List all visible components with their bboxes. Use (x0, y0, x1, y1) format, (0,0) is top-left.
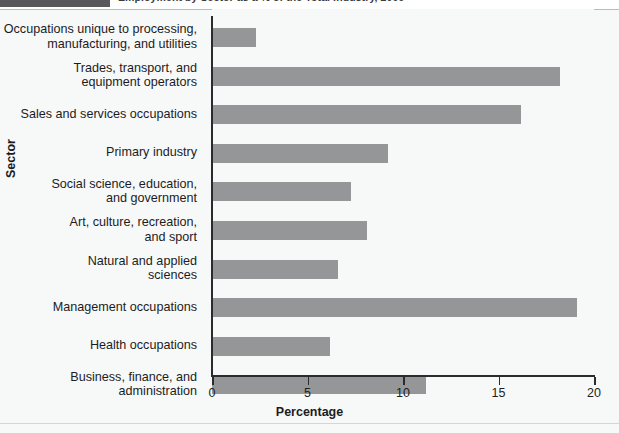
chart-figure: Employment by Sector as a % of the Total… (0, 0, 619, 433)
x-axis-tick-label: 15 (492, 386, 506, 400)
x-axis-tick (499, 377, 501, 385)
category-label: Social science, education, and governmen… (0, 177, 205, 206)
bar (212, 298, 577, 317)
category-label: Management occupations (0, 300, 205, 314)
category-labels: Occupations unique to processing, manufa… (0, 0, 205, 433)
bar (212, 28, 256, 47)
bottom-divider (0, 423, 619, 424)
bar (212, 67, 560, 86)
x-axis-tick (403, 377, 405, 385)
category-label: Trades, transport, and equipment operato… (0, 61, 205, 90)
bar (212, 144, 388, 163)
bar (212, 221, 367, 240)
category-label: Primary industry (0, 145, 205, 159)
bar (212, 260, 338, 279)
x-axis-tick (308, 377, 310, 385)
x-axis-title: Percentage (0, 405, 619, 419)
x-axis-tick-label: 5 (304, 386, 311, 400)
x-axis-tick-label: 20 (587, 386, 601, 400)
x-axis-tick-label: 0 (209, 386, 216, 400)
x-axis-tick (594, 377, 596, 385)
category-label: Sales and services occupations (0, 107, 205, 121)
x-axis-tick-label: 10 (396, 386, 410, 400)
y-axis-line (211, 16, 213, 375)
bar (212, 105, 521, 124)
bar (212, 337, 330, 356)
x-axis-tick (212, 377, 214, 385)
plot-area (212, 9, 594, 375)
bar (212, 182, 351, 201)
category-label: Occupations unique to processing, manufa… (0, 22, 205, 51)
category-label: Natural and applied sciences (0, 254, 205, 283)
category-label: Art, culture, recreation, and sport (0, 215, 205, 244)
category-label: Business, finance, and administration (0, 370, 205, 399)
category-label: Health occupations (0, 338, 205, 352)
y-axis-title: Sector (4, 139, 18, 178)
bar (212, 375, 426, 394)
